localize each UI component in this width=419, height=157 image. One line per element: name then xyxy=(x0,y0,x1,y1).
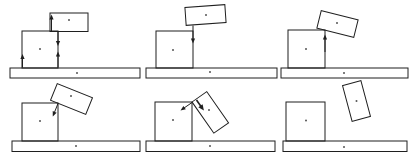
plank xyxy=(50,13,88,32)
center-dot xyxy=(70,95,72,97)
force-arrow-head xyxy=(323,35,327,40)
ground-strip xyxy=(146,68,277,78)
center-dot xyxy=(39,48,41,50)
panel-plank-tipping-more xyxy=(12,84,140,152)
ground-strip xyxy=(10,68,140,78)
center-dot xyxy=(172,119,174,121)
plank xyxy=(192,92,229,133)
support-box xyxy=(155,102,192,141)
force-arrow-head xyxy=(181,106,186,111)
panel-plank-leaning-steeply xyxy=(146,92,275,152)
center-dot xyxy=(39,120,41,122)
center-dot xyxy=(209,71,211,73)
force-arrow-head xyxy=(56,52,60,57)
center-dot xyxy=(209,145,211,147)
center-dot xyxy=(343,146,345,148)
center-dot xyxy=(76,72,78,74)
center-dot xyxy=(305,120,307,122)
panel-plank-tipping-on-corner xyxy=(281,11,408,78)
center-dot xyxy=(343,72,345,74)
support-box xyxy=(286,102,325,141)
ground-strip xyxy=(283,141,407,152)
physics-figure xyxy=(0,0,419,157)
force-arrow xyxy=(184,103,192,109)
center-dot xyxy=(172,49,174,51)
plank xyxy=(317,11,358,38)
support-box xyxy=(156,31,193,68)
panel-plank-fallen-off xyxy=(283,81,407,152)
center-dot xyxy=(68,19,70,21)
center-dot xyxy=(356,100,358,102)
force-arrow-head xyxy=(53,111,57,116)
force-arrow xyxy=(197,100,202,107)
force-arrow xyxy=(54,104,58,113)
center-dot xyxy=(75,145,77,147)
center-dot xyxy=(208,109,210,111)
center-dot xyxy=(336,22,338,24)
plank xyxy=(51,84,93,115)
panel-plank-flat-on-box xyxy=(10,13,140,78)
center-dot xyxy=(305,48,307,50)
force-arrow-head xyxy=(191,39,195,44)
force-arrow-head xyxy=(20,54,24,59)
figure-canvas xyxy=(0,0,419,157)
panel-plank-tilted-slightly xyxy=(146,5,277,78)
center-dot xyxy=(205,14,207,16)
force-arrow-head xyxy=(56,41,60,46)
